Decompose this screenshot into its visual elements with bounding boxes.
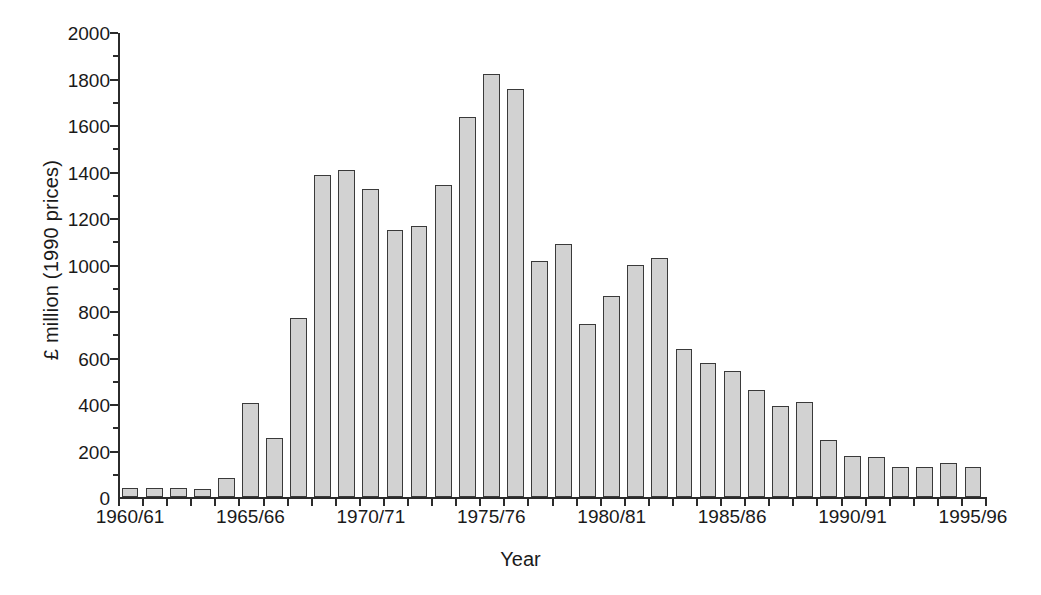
x-tick	[744, 497, 746, 506]
x-tick	[479, 497, 481, 506]
x-tick	[527, 497, 529, 506]
bar[interactable]	[916, 467, 933, 497]
bar[interactable]	[362, 189, 379, 497]
bar[interactable]	[170, 488, 187, 497]
bar[interactable]	[820, 440, 837, 497]
bar[interactable]	[676, 349, 693, 497]
bar-chart: £ million (1990 prices) 0200400600800100…	[0, 0, 1041, 595]
x-tick-label: 1965/66	[216, 506, 285, 529]
bar[interactable]	[868, 457, 885, 497]
y-tick-label: 200	[78, 442, 110, 461]
x-tick	[503, 497, 505, 506]
x-tick	[287, 497, 289, 506]
y-tick-label: 1600	[68, 117, 110, 136]
x-tick	[816, 497, 818, 506]
x-tick	[600, 497, 602, 506]
bar[interactable]	[748, 390, 765, 497]
bar[interactable]	[122, 488, 139, 497]
x-tick	[166, 497, 168, 506]
y-tick-label: 600	[78, 349, 110, 368]
bar[interactable]	[940, 463, 957, 497]
x-tick	[238, 497, 240, 506]
x-tick	[961, 497, 963, 506]
x-tick	[913, 497, 915, 506]
y-tick-label: 1800	[68, 70, 110, 89]
x-tick-label: 1995/96	[939, 506, 1008, 529]
x-tick	[889, 497, 891, 506]
bar[interactable]	[387, 230, 404, 497]
plot-area	[118, 33, 985, 498]
x-tick	[552, 497, 554, 506]
bar[interactable]	[700, 363, 717, 497]
x-tick	[720, 497, 722, 506]
bar[interactable]	[651, 258, 668, 497]
x-tick	[335, 497, 337, 506]
bar[interactable]	[290, 318, 307, 497]
x-tick	[672, 497, 674, 506]
x-tick	[118, 497, 120, 506]
bar[interactable]	[965, 467, 982, 497]
x-tick	[648, 497, 650, 506]
x-tick	[311, 497, 313, 506]
x-tick	[359, 497, 361, 506]
x-tick-label: 1985/86	[698, 506, 767, 529]
x-tick	[985, 497, 987, 506]
y-tick-major	[110, 125, 118, 127]
x-axis-title: Year	[0, 548, 1041, 571]
y-tick-label: 800	[78, 303, 110, 322]
bar[interactable]	[338, 170, 355, 497]
bars-layer	[118, 33, 985, 498]
y-tick-label: 1400	[68, 163, 110, 182]
x-tick-label: 1975/76	[457, 506, 526, 529]
y-tick-label: 1200	[68, 210, 110, 229]
bar[interactable]	[242, 403, 259, 497]
bar[interactable]	[531, 261, 548, 497]
x-tick	[841, 497, 843, 506]
bar[interactable]	[627, 265, 644, 498]
y-tick-major	[110, 218, 118, 220]
x-tick	[407, 497, 409, 506]
x-axis-tick-labels: 1960/611965/661970/711975/761980/811985/…	[118, 506, 985, 536]
bar[interactable]	[724, 371, 741, 497]
x-tick	[696, 497, 698, 506]
x-tick	[792, 497, 794, 506]
bar[interactable]	[314, 175, 331, 497]
x-tick-label: 1980/81	[577, 506, 646, 529]
bar[interactable]	[218, 478, 235, 497]
bar[interactable]	[844, 456, 861, 497]
bar[interactable]	[892, 467, 909, 497]
y-tick-label: 1000	[68, 256, 110, 275]
x-tick-label: 1990/91	[818, 506, 887, 529]
bar[interactable]	[411, 226, 428, 497]
x-tick	[431, 497, 433, 506]
bar[interactable]	[194, 489, 211, 497]
y-tick-major	[110, 265, 118, 267]
x-tick-label: 1970/71	[337, 506, 406, 529]
bar[interactable]	[483, 74, 500, 497]
bar[interactable]	[459, 117, 476, 497]
y-tick-major	[110, 32, 118, 34]
x-tick	[214, 497, 216, 506]
bar[interactable]	[507, 89, 524, 497]
y-tick-major	[110, 79, 118, 81]
x-tick	[576, 497, 578, 506]
y-tick-major	[110, 172, 118, 174]
bar[interactable]	[435, 185, 452, 497]
bar[interactable]	[266, 438, 283, 497]
x-tick	[142, 497, 144, 506]
y-tick-major	[110, 311, 118, 313]
bar[interactable]	[146, 488, 163, 497]
bar[interactable]	[555, 244, 572, 497]
bar[interactable]	[603, 296, 620, 497]
y-tick-major	[110, 358, 118, 360]
y-tick-label: 0	[99, 489, 110, 508]
y-tick-label: 2000	[68, 24, 110, 43]
x-tick	[455, 497, 457, 506]
x-tick	[768, 497, 770, 506]
bar[interactable]	[579, 324, 596, 497]
y-axis-tick-labels: 0200400600800100012001400160018002000	[55, 33, 110, 498]
y-tick-major	[110, 451, 118, 453]
bar[interactable]	[796, 402, 813, 497]
bar[interactable]	[772, 406, 789, 497]
x-tick	[865, 497, 867, 506]
